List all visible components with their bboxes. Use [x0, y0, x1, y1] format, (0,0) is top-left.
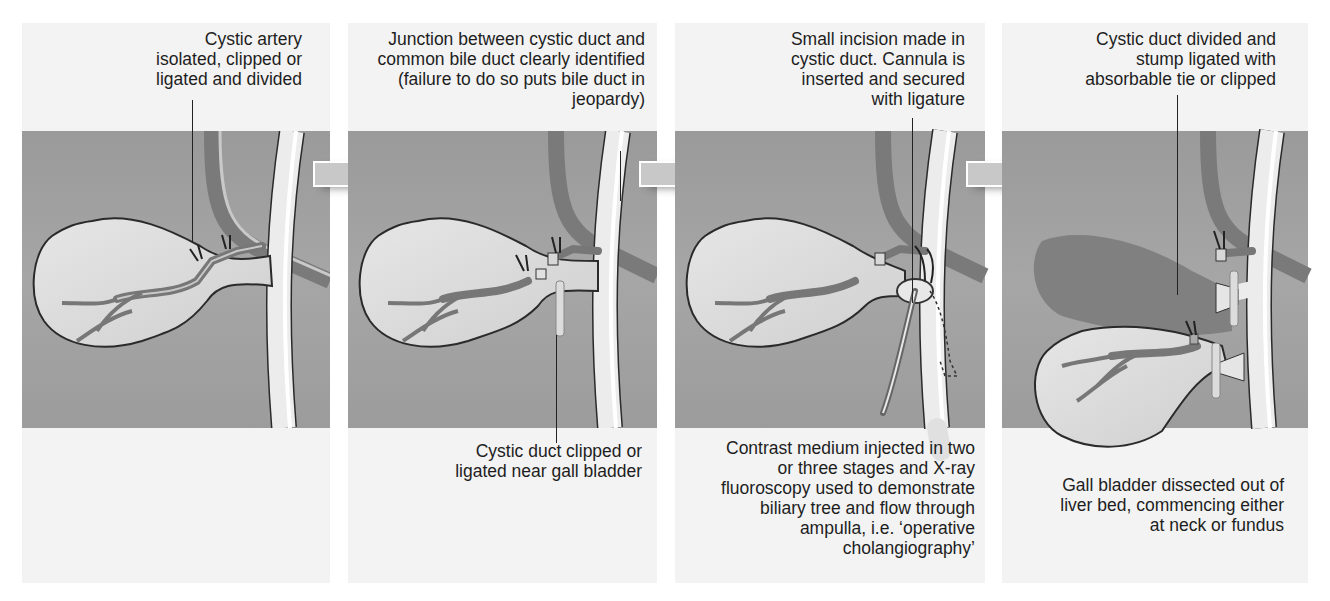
gall-bladder-illustration	[348, 131, 657, 428]
gall-bladder-illustration	[1002, 131, 1308, 471]
step-2-bottom-leader-line	[556, 335, 557, 443]
step-4-leader-line	[1177, 95, 1178, 295]
step-1-leader-line	[192, 100, 193, 243]
panel-step-1: Cystic artery isolated, clipped or ligat…	[22, 23, 330, 583]
step-3-leader-line	[912, 118, 913, 303]
step-2-bottom-label: Cystic duct clipped or ligated near gall…	[382, 441, 642, 481]
step-1-top-label: Cystic artery isolated, clipped or ligat…	[32, 29, 302, 89]
gall-bladder-illustration	[22, 131, 330, 428]
gall-bladder-illustration	[675, 131, 985, 471]
step-3-bottom-label: Contrast medium injected in two or three…	[675, 438, 975, 558]
step-3-top-label: Small incision made in cystic duct. Cann…	[705, 29, 965, 109]
step-2-top-leader-line	[620, 151, 621, 201]
panel-step-3: Small incision made in cystic duct. Cann…	[675, 23, 985, 583]
step-4-top-label: Cystic duct divided and stump ligated wi…	[1016, 29, 1276, 89]
panel-step-4: Cystic duct divided and stump ligated wi…	[1002, 23, 1308, 583]
step-2-top-label: Junction between cystic duct and common …	[345, 29, 645, 109]
step-4-bottom-label: Gall bladder dissected out of liver bed,…	[1004, 475, 1284, 535]
panel-step-2: Junction between cystic duct and common …	[348, 23, 657, 583]
